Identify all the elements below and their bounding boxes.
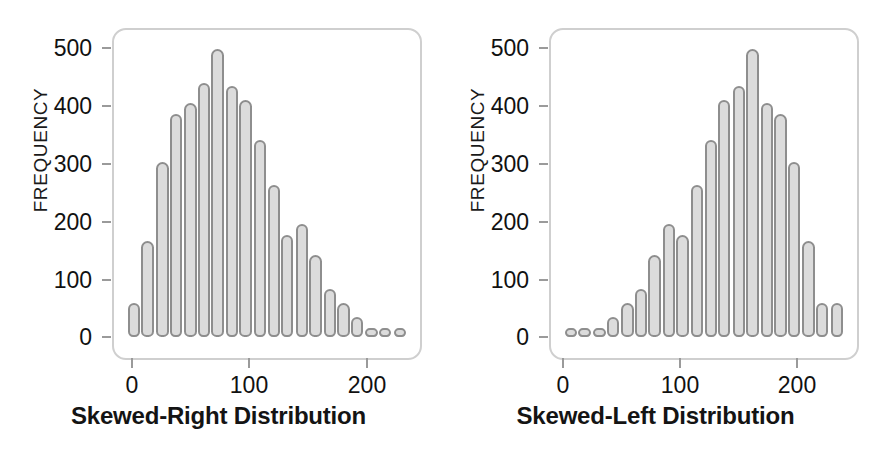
- histogram-bar: [578, 328, 590, 337]
- x-tick-mark: [248, 358, 250, 368]
- histogram-bar: [226, 86, 238, 337]
- histogram-bar: [337, 303, 349, 337]
- x-tick-label: 100: [645, 370, 715, 400]
- y-tick-mark: [539, 47, 548, 49]
- x-tick-mark: [366, 358, 368, 368]
- histogram-bar: [309, 255, 321, 337]
- x-tick-mark: [679, 358, 681, 368]
- y-tick-mark: [539, 105, 548, 107]
- histogram-bar: [184, 103, 196, 337]
- y-tick-mark: [539, 163, 548, 165]
- histogram-bar: [663, 224, 675, 337]
- y-tick-label: 100: [34, 267, 92, 293]
- histogram-bar: [593, 328, 605, 337]
- histogram-bar: [691, 185, 703, 337]
- histogram-bar: [648, 255, 660, 337]
- histogram-bar: [635, 289, 647, 337]
- histogram-bar: [156, 162, 168, 337]
- histogram-bar: [198, 83, 210, 337]
- y-tick-label: 500: [471, 35, 529, 61]
- histogram-bar: [211, 49, 223, 337]
- chart-title: Skewed-Right Distribution: [0, 402, 437, 430]
- x-tick-mark: [796, 358, 798, 368]
- histogram-bar: [746, 49, 758, 337]
- x-tick-label: 200: [762, 370, 832, 400]
- y-axis-tick-labels: 500 400 300 200 100 0: [471, 0, 529, 400]
- histogram-bar: [802, 241, 814, 337]
- histogram-bar: [761, 103, 773, 337]
- x-tick-mark: [131, 358, 133, 368]
- x-tick-label: 200: [332, 370, 402, 400]
- histogram-bar: [170, 114, 182, 337]
- histogram-bar: [365, 328, 377, 337]
- histogram-bar: [733, 86, 745, 337]
- y-tick-mark: [102, 279, 111, 281]
- histogram-bar: [239, 100, 251, 337]
- bars-container: [559, 38, 849, 337]
- x-tick-label: 0: [528, 370, 598, 400]
- histogram-bar: [565, 328, 577, 337]
- histogram-bar: [676, 235, 688, 337]
- histogram-bar: [788, 162, 800, 337]
- y-tick-mark: [102, 47, 111, 49]
- y-tick-label: 0: [471, 324, 529, 350]
- histogram-bar: [394, 328, 406, 337]
- chart-panel-skewed-right: FREQUENCY 500 400 300 200 100 0 0 100 20…: [0, 0, 437, 464]
- histogram-bar: [268, 185, 280, 337]
- y-axis-tick-labels: 500 400 300 200 100 0: [34, 0, 92, 400]
- histogram-bar: [141, 241, 153, 337]
- y-tick-mark: [539, 336, 548, 338]
- histogram-bar: [774, 114, 786, 337]
- y-tick-label: 200: [471, 209, 529, 235]
- y-tick-label: 100: [471, 267, 529, 293]
- histogram-bar: [831, 303, 843, 337]
- histogram-bar: [128, 303, 140, 337]
- y-tick-label: 400: [471, 93, 529, 119]
- bars-container: [122, 38, 412, 337]
- histogram-bar: [621, 303, 633, 337]
- y-tick-label: 300: [471, 151, 529, 177]
- histogram-bar: [816, 303, 828, 337]
- x-tick-label: 100: [214, 370, 284, 400]
- y-tick-label: 0: [34, 324, 92, 350]
- histogram-bar: [705, 140, 717, 337]
- y-tick-label: 400: [34, 93, 92, 119]
- histogram-bar: [351, 317, 363, 337]
- y-tick-mark: [539, 221, 548, 223]
- histogram-bar: [281, 235, 293, 337]
- y-tick-mark: [102, 163, 111, 165]
- y-tick-label: 500: [34, 35, 92, 61]
- x-tick-mark: [562, 358, 564, 368]
- x-tick-label: 0: [97, 370, 167, 400]
- figure-root: FREQUENCY 500 400 300 200 100 0 0 100 20…: [0, 0, 874, 464]
- histogram-bar: [324, 289, 336, 337]
- chart-title: Skewed-Left Distribution: [437, 402, 874, 430]
- x-axis-ticks: 0 100 200: [0, 348, 437, 408]
- chart-panel-skewed-left: FREQUENCY 500 400 300 200 100 0 0 100 20…: [437, 0, 874, 464]
- histogram-bar: [254, 140, 266, 337]
- y-tick-mark: [539, 279, 548, 281]
- y-tick-label: 200: [34, 209, 92, 235]
- y-tick-label: 300: [34, 151, 92, 177]
- y-tick-mark: [102, 105, 111, 107]
- histogram-bar: [296, 224, 308, 337]
- histogram-bar: [379, 328, 391, 337]
- y-tick-mark: [102, 336, 111, 338]
- x-axis-ticks: 0 100 200: [437, 348, 874, 408]
- histogram-bar: [718, 100, 730, 337]
- histogram-bar: [607, 317, 619, 337]
- y-tick-mark: [102, 221, 111, 223]
